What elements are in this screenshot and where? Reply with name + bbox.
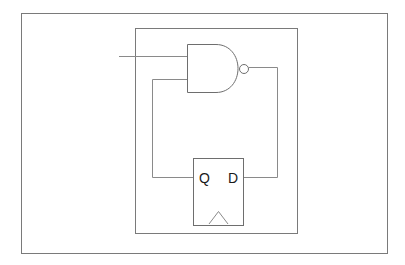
feedback-wire	[153, 80, 194, 178]
d-pin-label: D	[228, 170, 238, 186]
circuit-diagram: Q D	[0, 0, 405, 265]
clock-input-icon	[209, 212, 228, 225]
inversion-bubble-icon	[240, 65, 249, 74]
q-pin-label: Q	[199, 170, 210, 186]
inner-frame	[136, 29, 298, 234]
nand-gate-icon	[188, 45, 239, 93]
outer-frame	[22, 14, 388, 254]
nand-output-wire	[243, 68, 278, 178]
d-flip-flop	[194, 159, 244, 226]
